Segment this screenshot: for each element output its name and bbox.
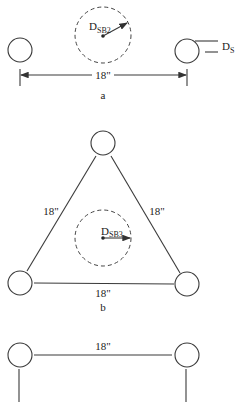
side-label-c-top: 18" [95,340,111,352]
side-label-right: 18" [149,205,165,217]
conductor-right [175,39,199,63]
ds-label: DS [222,40,234,55]
side-label-left: 18" [43,205,59,217]
spacing-label-a: 18" [95,69,111,81]
conductor-bottom-right [175,272,199,296]
panel-c: 18" [8,340,199,402]
side-bottom [34,283,174,284]
panel-label-a: a [101,89,106,101]
panel-b: 18" 18" 18" DSB3 b [8,131,199,313]
gmr-label-sb2: DSB2 [89,20,111,35]
panel-a: DSB2 DS 18" a [8,7,234,101]
conductor-top [91,131,115,155]
panel-label-b: b [100,301,106,313]
conductor-left [8,38,32,62]
conductor-c-top-left [8,343,32,367]
side-left [27,156,96,271]
gmr-label-sb3: DSB3 [101,225,123,239]
bundle-diagram: DSB2 DS 18" a 18" 18" 18" DSB3 b 18" [0,0,237,402]
side-right [111,156,180,273]
side-label-bottom: 18" [95,287,111,299]
conductor-c-top-right [175,343,199,367]
conductor-bottom-left [8,271,32,295]
